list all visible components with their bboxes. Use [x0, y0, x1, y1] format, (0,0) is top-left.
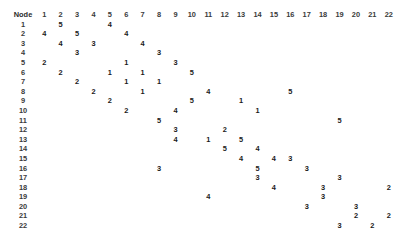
matrix-cell-r21-c15	[266, 211, 282, 221]
matrix-cell-r5-c8	[151, 58, 167, 68]
matrix-cell-r11-c1	[36, 116, 52, 126]
matrix-cell-r9-c21	[364, 96, 380, 106]
matrix-cell-r2-c18	[315, 29, 331, 39]
matrix-cell-r22-c22	[381, 221, 397, 231]
matrix-cell-r12-c3	[69, 125, 85, 135]
matrix-cell-r11-c4	[85, 116, 101, 126]
matrix-cell-r12-c21	[364, 125, 380, 135]
table-row: 1454	[10, 144, 397, 154]
matrix-cell-r1-c5: 4	[102, 20, 118, 30]
matrix-cell-r6-c19	[331, 68, 347, 78]
matrix-cell-r5-c17	[299, 58, 315, 68]
matrix-cell-r12-c2	[52, 125, 68, 135]
matrix-cell-r12-c14	[249, 125, 265, 135]
column-header-20: 20	[348, 10, 364, 20]
matrix-cell-r17-c8	[151, 173, 167, 183]
matrix-cell-r13-c22	[381, 135, 397, 145]
matrix-cell-r15-c15: 4	[266, 154, 282, 164]
matrix-cell-r6-c16	[282, 68, 298, 78]
matrix-cell-r3-c11	[200, 39, 216, 49]
matrix-cell-r17-c12	[216, 173, 232, 183]
matrix-cell-r6-c8	[151, 68, 167, 78]
matrix-cell-r17-c18	[315, 173, 331, 183]
matrix-cell-r21-c22: 2	[381, 211, 397, 221]
matrix-cell-r9-c2	[52, 96, 68, 106]
matrix-cell-r7-c3: 2	[69, 77, 85, 87]
matrix-cell-r21-c9	[167, 211, 183, 221]
table-header: Node 12345678910111213141516171819202122	[10, 10, 397, 20]
matrix-cell-r17-c22	[381, 173, 397, 183]
row-header-16: 16	[10, 164, 36, 174]
matrix-cell-r6-c6	[118, 68, 134, 78]
matrix-cell-r15-c8	[151, 154, 167, 164]
matrix-cell-r13-c4	[85, 135, 101, 145]
matrix-cell-r4-c14	[249, 48, 265, 58]
matrix-cell-r16-c2	[52, 164, 68, 174]
matrix-cell-r1-c2: 5	[52, 20, 68, 30]
matrix-cell-r21-c4	[85, 211, 101, 221]
matrix-cell-r15-c12	[216, 154, 232, 164]
table-row: 2033	[10, 202, 397, 212]
matrix-cell-r6-c12	[216, 68, 232, 78]
matrix-cell-r10-c5	[102, 106, 118, 116]
matrix-cell-r22-c4	[85, 221, 101, 231]
matrix-cell-r15-c9	[167, 154, 183, 164]
matrix-cell-r15-c10	[184, 154, 200, 164]
matrix-cell-r19-c4	[85, 192, 101, 202]
matrix-cell-r11-c3	[69, 116, 85, 126]
matrix-cell-r4-c17	[299, 48, 315, 58]
matrix-cell-r4-c12	[216, 48, 232, 58]
matrix-cell-r15-c22	[381, 154, 397, 164]
matrix-cell-r5-c19	[331, 58, 347, 68]
table-row: 1232	[10, 125, 397, 135]
matrix-cell-r18-c1	[36, 183, 52, 193]
matrix-cell-r17-c4	[85, 173, 101, 183]
matrix-cell-r11-c5	[102, 116, 118, 126]
matrix-cell-r8-c9	[167, 87, 183, 97]
matrix-cell-r5-c1: 2	[36, 58, 52, 68]
matrix-cell-r10-c14: 1	[249, 106, 265, 116]
matrix-cell-r2-c11	[200, 29, 216, 39]
matrix-cell-r7-c2	[52, 77, 68, 87]
matrix-cell-r14-c22	[381, 144, 397, 154]
matrix-cell-r6-c14	[249, 68, 265, 78]
matrix-cell-r22-c21: 2	[364, 221, 380, 231]
matrix-cell-r18-c3	[69, 183, 85, 193]
matrix-cell-r9-c7	[134, 96, 150, 106]
matrix-cell-r2-c15	[266, 29, 282, 39]
matrix-cell-r20-c11	[200, 202, 216, 212]
matrix-cell-r4-c4	[85, 48, 101, 58]
matrix-cell-r5-c7	[134, 58, 150, 68]
row-header-4: 4	[10, 48, 36, 58]
matrix-cell-r12-c13	[233, 125, 249, 135]
row-header-10: 10	[10, 106, 36, 116]
matrix-cell-r6-c1	[36, 68, 52, 78]
matrix-cell-r16-c21	[364, 164, 380, 174]
matrix-cell-r13-c8	[151, 135, 167, 145]
matrix-cell-r16-c7	[134, 164, 150, 174]
matrix-cell-r11-c16	[282, 116, 298, 126]
matrix-cell-r7-c17	[299, 77, 315, 87]
matrix-cell-r14-c3	[69, 144, 85, 154]
matrix-cell-r20-c10	[184, 202, 200, 212]
matrix-cell-r14-c14: 4	[249, 144, 265, 154]
matrix-cell-r12-c6	[118, 125, 134, 135]
matrix-cell-r9-c15	[266, 96, 282, 106]
matrix-cell-r18-c10	[184, 183, 200, 193]
matrix-cell-r11-c13	[233, 116, 249, 126]
matrix-cell-r19-c11: 4	[200, 192, 216, 202]
matrix-cell-r3-c6	[118, 39, 134, 49]
matrix-cell-r8-c12	[216, 87, 232, 97]
matrix-cell-r8-c7: 1	[134, 87, 150, 97]
matrix-cell-r1-c19	[331, 20, 347, 30]
matrix-cell-r3-c16	[282, 39, 298, 49]
matrix-cell-r18-c4	[85, 183, 101, 193]
matrix-cell-r1-c10	[184, 20, 200, 30]
matrix-cell-r17-c3	[69, 173, 85, 183]
matrix-cell-r14-c13	[233, 144, 249, 154]
matrix-cell-r16-c3	[69, 164, 85, 174]
row-header-14: 14	[10, 144, 36, 154]
matrix-cell-r6-c11	[200, 68, 216, 78]
matrix-cell-r19-c6	[118, 192, 134, 202]
matrix-cell-r10-c15	[266, 106, 282, 116]
